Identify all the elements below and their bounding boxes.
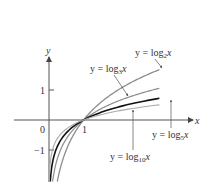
label-log10: y = log10x (110, 151, 150, 164)
y-tick-1-label: 1 (40, 85, 45, 96)
label-log2: y = log2x (135, 47, 172, 60)
y-axis-label: y (45, 45, 51, 56)
curve-log2 (57, 70, 159, 182)
pointer-log2 (155, 59, 162, 68)
y-tick-neg1-label: −1 (34, 145, 45, 156)
log-functions-chart: x y 0 1 1 −1 y = log2x y = log3x y = log… (0, 0, 214, 194)
curve-log10 (49, 105, 159, 182)
label-log3: y = log3x (90, 63, 127, 76)
label-log5: y = log5x (152, 129, 189, 142)
origin-label: 0 (40, 124, 45, 135)
x-axis-label: x (194, 115, 200, 126)
curve-log5 (50, 98, 159, 181)
curves (49, 70, 159, 182)
x-tick-1-label: 1 (82, 124, 87, 135)
curve-log3 (53, 88, 160, 181)
